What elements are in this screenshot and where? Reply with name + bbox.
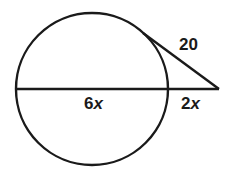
tangent-length-label: 20 [179,35,198,54]
geometry-diagram: 20 6x 2x [0,0,230,176]
internal-segment-label: 6x [84,94,104,113]
external-segment-label: 2x [181,94,201,113]
